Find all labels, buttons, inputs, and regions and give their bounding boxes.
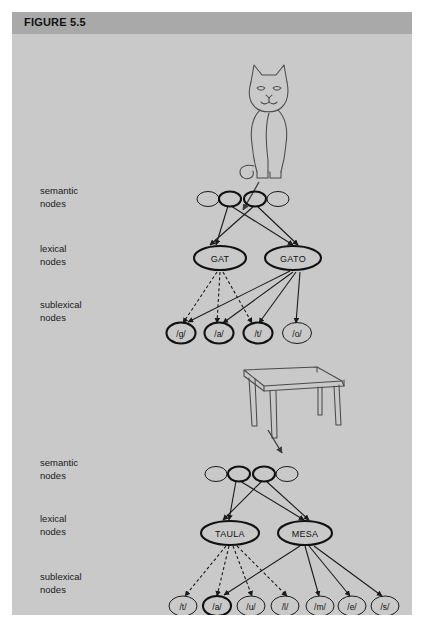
semantic-node[interactable]	[219, 192, 241, 207]
figure-body: semantic nodes lexical nodes sublexical …	[12, 34, 412, 615]
network-diagram: semantic nodes lexical nodes sublexical …	[12, 34, 412, 615]
label-semantic-bottom-line1: semantic	[40, 457, 78, 468]
sublexical-node-u-label: /u/	[246, 602, 256, 612]
semantic-node[interactable]	[228, 467, 250, 482]
semantic-node[interactable]	[244, 192, 266, 207]
top-semantic-nodes	[197, 192, 289, 207]
figure-header-bar: FIGURE 5.5	[12, 12, 412, 34]
sublexical-node-e-label: /e/	[347, 602, 357, 612]
label-semantic-top-line1: semantic	[40, 185, 78, 196]
top-semantic-lexical-links	[210, 206, 298, 245]
figure-title: FIGURE 5.5	[24, 16, 86, 28]
figure-panel: FIGURE 5.5	[12, 12, 412, 615]
lexical-node-gato-label: GATO	[280, 254, 306, 264]
label-lexical-top-line1: lexical	[40, 243, 66, 254]
bottom-sublexical-nodes: /t/ /a/ /u/ /l/ /m/ /e/ /s/	[169, 596, 399, 615]
lexical-node-mesa-label: MESA	[292, 529, 319, 539]
semantic-node[interactable]	[253, 467, 275, 482]
top-lexical-sublexical-links	[183, 271, 300, 323]
bottom-semantic-nodes	[205, 467, 298, 482]
sublexical-node-l-label: /l/	[282, 602, 289, 612]
lexical-node-gat-label: GAT	[211, 254, 230, 264]
sublexical-node-a-label: /a/	[214, 329, 224, 339]
label-sublexical-bottom-line2: nodes	[40, 584, 66, 595]
sublexical-node-a-label: /a/	[212, 602, 222, 612]
lexical-node-taula-label: TAULA	[215, 529, 245, 539]
semantic-node[interactable]	[205, 467, 227, 482]
bottom-lexical-nodes: TAULA MESA	[201, 521, 332, 545]
sublexical-node-s-label: /s/	[381, 602, 391, 612]
label-lexical-bottom-line2: nodes	[40, 526, 66, 537]
label-sublexical-top-line1: sublexical	[40, 299, 82, 310]
bottom-lexical-sublexical-links	[185, 546, 382, 596]
cat-drawing	[240, 65, 288, 210]
top-lexical-nodes: GAT GATO	[194, 246, 321, 270]
label-semantic-bottom-line2: nodes	[40, 470, 66, 481]
sublexical-node-t-label: /t/	[254, 329, 262, 339]
table-drawing	[244, 367, 344, 453]
sublexical-node-m-label: /m/	[314, 602, 326, 612]
label-semantic-top-line2: nodes	[40, 198, 66, 209]
sublexical-node-g-label: /g/	[176, 329, 186, 339]
label-lexical-top-line2: nodes	[40, 256, 66, 267]
sublexical-node-o-label: /o/	[292, 329, 302, 339]
sublexical-node-t-label: /t/	[179, 602, 187, 612]
label-sublexical-top-line2: nodes	[40, 312, 66, 323]
semantic-node[interactable]	[267, 192, 289, 207]
label-lexical-bottom-line1: lexical	[40, 513, 66, 524]
semantic-node[interactable]	[276, 467, 298, 482]
bottom-semantic-lexical-links	[223, 481, 309, 520]
label-sublexical-bottom-line1: sublexical	[40, 571, 82, 582]
top-sublexical-nodes: /g/ /a/ /t/ /o/	[167, 323, 312, 344]
semantic-node[interactable]	[197, 192, 219, 207]
